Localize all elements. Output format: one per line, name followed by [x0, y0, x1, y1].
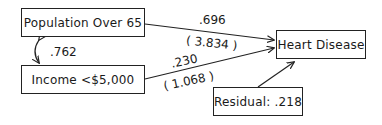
node-label: Population Over 65 [24, 16, 142, 30]
node-label: Heart Disease [277, 38, 364, 52]
node-heart-disease: Heart Disease [276, 30, 366, 59]
node-population-over-65: Population Over 65 [21, 8, 145, 37]
node-income-under-5000: Income <$5,000 [21, 65, 145, 94]
node-residual: Residual: .218 [213, 87, 303, 116]
node-label: Income <$5,000 [32, 73, 135, 87]
coef-pop65-heart: .696 [199, 14, 226, 26]
correlation-value: .762 [50, 46, 77, 58]
correlation-double-arrow [35, 40, 39, 63]
arrow-residual-to-heart [258, 62, 294, 87]
node-label: Residual: .218 [214, 95, 302, 109]
